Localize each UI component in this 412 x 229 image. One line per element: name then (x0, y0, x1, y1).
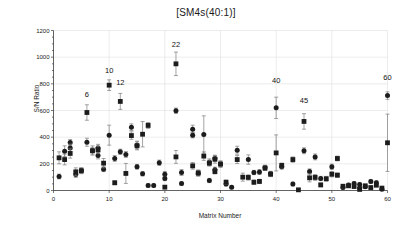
svg-text:40: 40 (272, 76, 280, 85)
scatter-plot: 0200400600800100012000102030405060 61012… (0, 0, 412, 229)
svg-text:30: 30 (217, 196, 224, 202)
annotations: 6101222404560 (85, 40, 392, 105)
chart-figure: [SM4s(40:1)] S/N Ratio Matrix Number 020… (0, 0, 412, 229)
svg-text:1000: 1000 (36, 54, 50, 60)
svg-text:0: 0 (46, 188, 50, 194)
svg-text:6: 6 (85, 90, 89, 99)
svg-text:60: 60 (384, 196, 391, 202)
svg-text:800: 800 (39, 81, 50, 87)
svg-text:400: 400 (39, 134, 50, 140)
svg-text:12: 12 (116, 78, 124, 87)
svg-text:10: 10 (106, 196, 113, 202)
svg-text:10: 10 (105, 66, 113, 75)
svg-text:600: 600 (39, 108, 50, 114)
svg-text:1200: 1200 (36, 28, 50, 34)
svg-text:45: 45 (300, 96, 308, 105)
svg-text:50: 50 (328, 196, 335, 202)
svg-text:22: 22 (172, 40, 180, 49)
svg-text:0: 0 (52, 196, 56, 202)
svg-text:200: 200 (39, 161, 50, 167)
svg-text:20: 20 (161, 196, 168, 202)
svg-text:40: 40 (273, 196, 280, 202)
svg-text:60: 60 (383, 73, 391, 82)
